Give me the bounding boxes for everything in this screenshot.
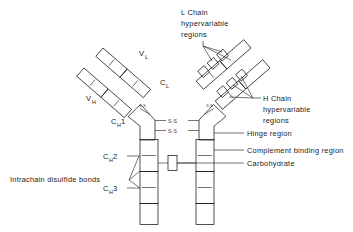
domain-label-vh: V H	[86, 94, 96, 105]
left-heavy-chain-fab	[77, 68, 132, 118]
cl-disulfide-tick	[133, 80, 138, 86]
h-chain-hypervariable-label: H Chain hypervariable regions	[263, 94, 311, 125]
vl-disulfide-tick	[109, 60, 114, 66]
l-chain-label-line3: regions	[181, 30, 207, 39]
fab-disulfide-bonds: S-S S-S	[139, 103, 214, 115]
domain-label-cl: C L	[160, 78, 169, 89]
fc-left-terminal	[140, 204, 158, 225]
h-hypervariable-box-1	[236, 69, 248, 81]
h-chain-leader-lines	[229, 76, 253, 98]
carbohydrate-box	[168, 156, 177, 171]
ch1-num: 1	[121, 117, 125, 126]
fab-right-ss-label: S-S	[206, 103, 213, 108]
h-chain-label-line1: H Chain	[263, 94, 291, 103]
intrachain-leader-lines	[129, 156, 140, 188]
right-heavy-chain-fab	[215, 60, 270, 110]
fab-left-ss-label: S-S	[139, 103, 146, 108]
h-chain-label-line3: regions	[263, 116, 289, 125]
ch3-num: 3	[113, 184, 117, 193]
domain-label-ch2: C H 2	[103, 152, 117, 163]
cl-right-disulfide-tick	[209, 72, 214, 78]
domain-vl-right-box	[220, 40, 251, 69]
hinge-left	[128, 105, 155, 141]
fc-right-terminal	[196, 204, 214, 225]
hinge-region-label: Hinge region	[247, 129, 292, 138]
vl-sub: L	[145, 54, 148, 60]
fc-stem-right	[196, 140, 214, 225]
right-callout-leaders	[177, 133, 244, 163]
diagram-canvas: S-S S-S S-S S-S	[0, 0, 353, 232]
h-chain-label-line2: hypervariable	[263, 105, 311, 114]
antibody-structure-figure: S-S S-S S-S S-S	[0, 0, 353, 232]
hinge-right	[199, 105, 226, 141]
l-hypervariable-box-2	[207, 57, 219, 69]
h-hypervariable-box-2	[226, 77, 238, 89]
vh-sub: H	[92, 99, 96, 105]
ch1-disulfide-tick	[114, 100, 119, 106]
fc-stem	[140, 140, 214, 225]
domain-label-vl: V L	[139, 49, 148, 60]
domain-label-ch3: C H 3	[103, 184, 117, 195]
l-chain-hypervariable-leader	[203, 41, 231, 61]
cl-sub: L	[166, 83, 169, 89]
domain-label-ch1: C H 1	[111, 117, 125, 128]
intrachain-disulfide-bonds-label: Intrachain disulfide bonds	[10, 175, 100, 184]
ss-bond-upper-label: S-S	[168, 118, 177, 124]
vh-disulfide-tick	[90, 80, 95, 86]
l-chain-hypervariable-boxes	[198, 49, 229, 77]
intrachain-leader	[129, 156, 140, 188]
h-hypervariable-box-3	[217, 86, 229, 98]
complement-binding-region-label: Complement binding region	[247, 146, 344, 155]
l-chain-hypervariable-label: L Chain hypervariable regions	[181, 8, 229, 39]
l-hypervariable-box-3	[198, 66, 210, 78]
l-chain-label-line1: L Chain	[181, 8, 208, 17]
fc-stem-left	[140, 140, 158, 225]
l-chain-label-line2: hypervariable	[181, 19, 229, 28]
ss-bond-lower-label: S-S	[168, 128, 177, 134]
domain-vh-right-box	[239, 60, 270, 89]
interchain-disulfide-bonds: S-S S-S	[155, 117, 199, 135]
ch2-num: 2	[113, 152, 117, 161]
right-light-chain	[196, 40, 251, 90]
carbohydrate-label: Carbohydrate	[247, 159, 295, 168]
